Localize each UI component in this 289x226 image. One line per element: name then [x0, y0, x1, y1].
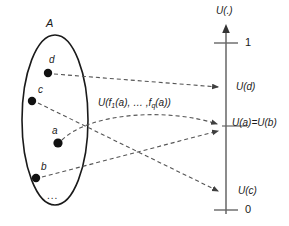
- mapping-arrow-d: [54, 74, 218, 87]
- utility-mapping-figure: A d c a b ... U(f1(a), … ,fq(a)) U(.) 1 …: [0, 0, 289, 226]
- element-dot-c: [28, 97, 36, 105]
- mapping-function-label: U(f1(a), … ,fq(a)): [98, 98, 171, 109]
- axis-title-label: U(.): [216, 6, 233, 16]
- mapping-label-part2: (a), … ,f: [115, 97, 151, 108]
- element-label-c: c: [38, 85, 43, 95]
- axis-tick-label-zero: 0: [245, 204, 251, 215]
- utility-axis-arrowhead: [222, 24, 230, 33]
- set-label-a: A: [46, 18, 53, 29]
- mapping-arrow-b: [42, 131, 218, 177]
- utility-value-label-a-b: U(a)=U(b): [232, 118, 277, 128]
- element-label-b: b: [41, 162, 47, 172]
- element-label-a: a: [52, 126, 58, 136]
- axis-tick-label-one: 1: [245, 37, 251, 48]
- element-label-d: d: [49, 55, 55, 65]
- element-dot-d: [44, 69, 52, 77]
- mapping-label-part3: (a)): [155, 97, 171, 108]
- set-ellipsis-label: ...: [47, 191, 58, 201]
- mapping-label-part1: U(f: [98, 97, 111, 108]
- utility-value-label-c: U(c): [238, 186, 257, 196]
- element-dot-b: [32, 174, 40, 182]
- mapping-arc-a: [62, 115, 217, 140]
- set-a-ellipse: [22, 35, 88, 205]
- utility-value-label-d: U(d): [236, 82, 255, 92]
- element-dot-a: [53, 138, 62, 147]
